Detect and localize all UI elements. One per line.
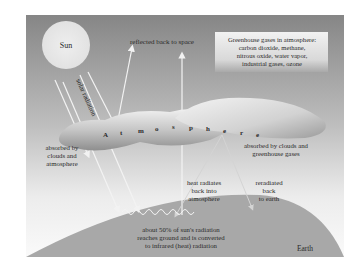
svg-text:back into: back into xyxy=(191,187,217,194)
svg-text:to infrared (heat) radiation: to infrared (heat) radiation xyxy=(145,242,217,250)
svg-text:e: e xyxy=(256,131,259,139)
svg-text:absorbed by: absorbed by xyxy=(45,144,79,151)
svg-text:e: e xyxy=(223,127,226,135)
svg-text:back: back xyxy=(263,187,276,194)
svg-text:to earth: to earth xyxy=(259,195,280,202)
sun-label: Sun xyxy=(60,41,72,50)
svg-text:industrial gases, ozone: industrial gases, ozone xyxy=(242,60,302,67)
svg-text:reradiated: reradiated xyxy=(255,179,283,186)
reflected-label: reflected back to space xyxy=(130,38,194,46)
svg-text:Greenhouse gases in atmosphere: Greenhouse gases in atmosphere: xyxy=(228,36,316,43)
svg-text:greenhouse gases: greenhouse gases xyxy=(252,150,300,157)
svg-text:reaches ground and is converte: reaches ground and is converted xyxy=(137,234,225,241)
absorbed-clouds-atmosphere-label: absorbed by clouds and atmosphere xyxy=(45,144,79,167)
heat-radiates-label: heat radiates back into atmosphere xyxy=(187,179,222,202)
greenhouse-effect-diagram: Sun solar radiation reflected back to sp… xyxy=(0,0,361,277)
svg-text:clouds and: clouds and xyxy=(47,152,77,159)
svg-text:atmosphere: atmosphere xyxy=(188,195,219,202)
svg-text:s: s xyxy=(172,123,175,131)
svg-text:m: m xyxy=(138,127,144,135)
svg-text:o: o xyxy=(155,125,159,133)
svg-text:A: A xyxy=(103,131,108,139)
svg-text:absorbed by clouds and: absorbed by clouds and xyxy=(244,142,309,149)
absorbed-clouds-greenhouse-label: absorbed by clouds and greenhouse gases xyxy=(244,142,309,157)
earth-label: Earth xyxy=(297,244,313,253)
svg-text:heat radiates: heat radiates xyxy=(187,179,222,186)
svg-text:atmosphere: atmosphere xyxy=(46,160,77,167)
svg-text:nitrous oxide, water vapor,: nitrous oxide, water vapor, xyxy=(237,52,308,59)
ground-absorption-label: about 50% of sun's radiation reaches gro… xyxy=(137,226,225,250)
svg-text:about 50% of sun's radiation: about 50% of sun's radiation xyxy=(142,226,220,233)
svg-text:r: r xyxy=(240,129,243,137)
svg-text:p: p xyxy=(189,124,193,132)
svg-text:h: h xyxy=(206,125,210,133)
svg-text:carbon dioxide, methane,: carbon dioxide, methane, xyxy=(239,44,306,51)
